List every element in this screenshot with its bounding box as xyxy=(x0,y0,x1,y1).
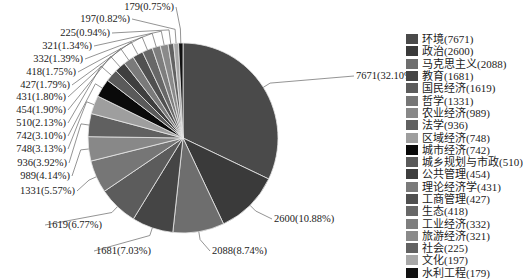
legend-item: 环境(7671) xyxy=(406,33,523,45)
legend-item: 教育(1681) xyxy=(406,70,523,82)
legend-swatch xyxy=(406,157,418,167)
legend-label: 旅游经济(321) xyxy=(422,230,490,242)
data-label: 989(4.14%) xyxy=(20,170,70,182)
legend-label: 农业经济(989) xyxy=(422,107,490,119)
data-label: 454(1.90%) xyxy=(16,104,66,116)
legend-label: 环境(7671) xyxy=(422,33,473,45)
legend-label: 水利工程(179) xyxy=(422,267,490,279)
leader-line xyxy=(77,177,96,191)
legend-swatch xyxy=(406,206,418,216)
legend-label: 文化(197) xyxy=(422,254,468,266)
legend-swatch xyxy=(406,96,418,106)
legend-item: 水利工程(179) xyxy=(406,267,523,279)
legend-swatch xyxy=(406,145,418,155)
legend-item: 理论经济学(431) xyxy=(406,181,523,193)
legend-label: 哲学(1331) xyxy=(422,95,473,107)
legend-item: 马克思主义(2088) xyxy=(406,58,523,70)
leader-line xyxy=(250,205,272,219)
data-label: 427(1.79%) xyxy=(20,79,70,91)
legend-swatch xyxy=(406,182,418,192)
legend-label: 教育(1681) xyxy=(422,70,473,82)
legend-item: 工业经济(332) xyxy=(406,217,523,229)
legend-label: 理论经济学(431) xyxy=(422,181,501,193)
data-label: 1681(7.03%) xyxy=(96,245,152,257)
data-label: 321(1.34%) xyxy=(42,40,92,52)
legend-label: 工商管理(427) xyxy=(422,193,490,205)
data-label: 742(3.10%) xyxy=(16,130,66,142)
legend-item: 旅游经济(321) xyxy=(406,230,523,242)
legend-swatch xyxy=(406,83,418,93)
pie-slices xyxy=(88,43,278,233)
legend-label: 工业经济(332) xyxy=(422,218,490,230)
legend-item: 生态(418) xyxy=(406,205,523,217)
legend-item: 公共管理(454) xyxy=(406,168,523,180)
legend-swatch xyxy=(406,59,418,69)
data-label: 2600(10.88%) xyxy=(274,213,335,225)
data-label: 179(0.75%) xyxy=(124,1,174,13)
legend: 环境(7671)政治(2600)马克思主义(2088)教育(1681)国民经济(… xyxy=(406,33,523,279)
legend-swatch xyxy=(406,34,418,44)
data-label: 510(2.13%) xyxy=(16,117,66,129)
legend-label: 国民经济(1619) xyxy=(422,82,495,94)
legend-item: 社会(225) xyxy=(406,242,523,254)
legend-swatch xyxy=(406,219,418,229)
leader-line xyxy=(199,232,210,251)
legend-label: 城市经济(742) xyxy=(422,144,490,156)
legend-swatch xyxy=(406,169,418,179)
leader-line xyxy=(176,7,181,43)
legend-item: 区域经济(748) xyxy=(406,131,523,143)
legend-item: 国民经济(1619) xyxy=(406,82,523,94)
leader-line xyxy=(69,124,89,163)
legend-label: 生态(418) xyxy=(422,205,468,217)
legend-label: 城乡规划与市政(510) xyxy=(422,156,523,168)
leader-line xyxy=(263,76,354,87)
legend-swatch xyxy=(406,268,418,278)
leader-line xyxy=(112,30,171,44)
legend-item: 城乡规划与市政(510) xyxy=(406,156,523,168)
legend-swatch xyxy=(406,133,418,143)
legend-label: 公共管理(454) xyxy=(422,168,490,180)
leader-line xyxy=(72,149,89,176)
legend-item: 文化(197) xyxy=(406,254,523,266)
data-label: 2088(8.74%) xyxy=(212,245,268,257)
legend-item: 农业经济(989) xyxy=(406,107,523,119)
legend-swatch xyxy=(406,108,418,118)
legend-label: 政治(2600) xyxy=(422,45,473,57)
data-label: 418(1.75%) xyxy=(26,66,76,78)
legend-item: 法学(936) xyxy=(406,119,523,131)
legend-label: 社会(225) xyxy=(422,242,468,254)
legend-label: 法学(936) xyxy=(422,119,468,131)
data-label: 332(1.39%) xyxy=(33,53,83,65)
legend-swatch xyxy=(406,120,418,130)
legend-item: 城市经济(742) xyxy=(406,144,523,156)
legend-label: 区域经济(748) xyxy=(422,132,490,144)
legend-swatch xyxy=(406,231,418,241)
legend-item: 政治(2600) xyxy=(406,45,523,57)
data-label: 748(3.13%) xyxy=(16,143,66,155)
legend-item: 工商管理(427) xyxy=(406,193,523,205)
legend-item: 哲学(1331) xyxy=(406,94,523,106)
legend-label: 马克思主义(2088) xyxy=(422,58,506,70)
legend-swatch xyxy=(406,255,418,265)
data-label: 225(0.94%) xyxy=(60,27,110,39)
data-label: 1331(5.57%) xyxy=(20,185,76,197)
legend-swatch xyxy=(406,71,418,81)
data-label: 936(3.92%) xyxy=(17,157,67,169)
legend-swatch xyxy=(406,46,418,56)
legend-swatch xyxy=(406,243,418,253)
data-label: 197(0.82%) xyxy=(80,13,130,25)
legend-swatch xyxy=(406,194,418,204)
data-label: 1619(6.77%) xyxy=(47,219,103,231)
data-label: 431(1.80%) xyxy=(16,91,66,103)
